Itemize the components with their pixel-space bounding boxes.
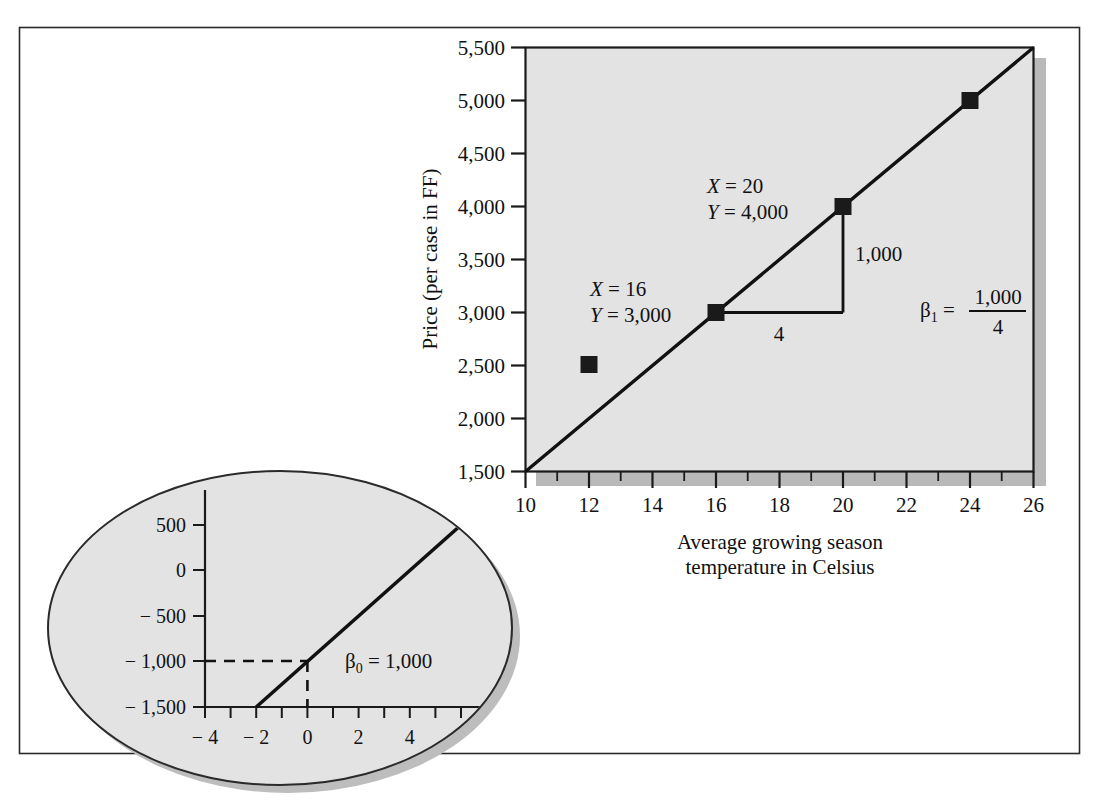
x-axis-title-line1: Average growing season: [677, 530, 884, 554]
y-tick-label: 2,000: [458, 407, 505, 431]
x-axis-title-line2: temperature in Celsius: [686, 555, 875, 579]
main-x-tick-labels: 10 12 14 16 18 20 22 24 26: [515, 493, 1044, 517]
beta0-subscript: 0: [356, 661, 363, 676]
y-tick-label: 3,500: [458, 248, 505, 272]
x-tick-label: 10: [515, 493, 536, 517]
inset-x-tick-label: 0: [302, 726, 312, 748]
inset-x-tick-label: 2: [354, 726, 364, 748]
slope-numerator: 1,000: [974, 285, 1021, 309]
y-tick-label: 1,500: [458, 460, 505, 484]
svg-text:β1 =: β1 =: [920, 298, 955, 325]
beta-subscript: 1: [931, 310, 938, 325]
x-tick-label: 14: [642, 493, 664, 517]
x-tick-label: 12: [579, 493, 600, 517]
svg-text:Y = 3,000: Y = 3,000: [590, 303, 671, 327]
x-tick-label: 24: [960, 493, 982, 517]
data-point-marker: [708, 304, 725, 321]
inset-x-tick-label: 4: [405, 726, 415, 748]
beta-symbol: β: [920, 298, 931, 322]
y-tick-label: 5,500: [458, 36, 505, 60]
data-point-marker: [835, 198, 852, 215]
inset-x-tick-label: − 4: [192, 726, 218, 748]
inset-y-tick-label: 500: [156, 514, 186, 536]
svg-text:X = 20: X = 20: [706, 174, 763, 198]
x-tick-label: 26: [1023, 493, 1044, 517]
x-tick-label: 16: [706, 493, 727, 517]
y-tick-label: 4,000: [458, 195, 505, 219]
data-point-marker: [581, 356, 598, 373]
figure-svg: 5,500 5,000 4,500 4,000 3,500 3,000 2,50…: [0, 0, 1096, 805]
inset-y-tick-label: − 1,500: [125, 696, 186, 718]
inset-x-tick-label: − 2: [243, 726, 269, 748]
x-tick-label: 22: [896, 493, 917, 517]
data-point-marker: [962, 92, 979, 109]
svg-text:Y = 4,000: Y = 4,000: [707, 200, 788, 224]
y-axis-title: Price (per case in FF): [418, 169, 442, 350]
inset-y-tick-label: 0: [176, 559, 186, 581]
figure-root: 5,500 5,000 4,500 4,000 3,500 3,000 2,50…: [0, 0, 1096, 805]
inset-ellipse: [48, 471, 512, 785]
run-label: 4: [774, 322, 785, 346]
inset-y-tick-label: − 1,000: [125, 650, 186, 672]
rise-label: 1,000: [855, 242, 902, 266]
y-tick-label: 4,500: [458, 142, 505, 166]
x-tick-label: 18: [769, 493, 790, 517]
y-tick-label: 5,000: [458, 89, 505, 113]
main-y-tick-labels: 5,500 5,000 4,500 4,000 3,500 3,000 2,50…: [458, 36, 505, 484]
slope-denominator: 4: [993, 315, 1004, 339]
beta0-symbol: β: [345, 649, 356, 673]
y-tick-label: 2,500: [458, 354, 505, 378]
svg-text:X = 16: X = 16: [589, 277, 646, 301]
inset-y-tick-label: − 500: [140, 605, 186, 627]
x-tick-label: 20: [833, 493, 854, 517]
y-tick-label: 3,000: [458, 301, 505, 325]
